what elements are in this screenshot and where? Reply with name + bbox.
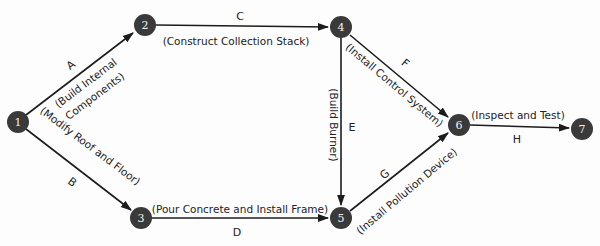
node-1: 1 <box>7 111 29 133</box>
activity-e-desc: (Build Burner) <box>328 88 340 161</box>
node-2: 2 <box>134 14 156 36</box>
activity-d-letter: D <box>233 226 241 239</box>
node-1-label: 1 <box>15 116 22 129</box>
activity-c-letter: C <box>236 10 244 23</box>
activity-e-letter: E <box>349 121 356 134</box>
edge-f <box>350 35 448 117</box>
node-7-label: 7 <box>579 123 586 136</box>
node-7: 7 <box>571 118 593 140</box>
activity-h-letter: H <box>513 133 521 146</box>
activity-b-letter: B <box>65 175 79 190</box>
node-3: 3 <box>130 207 152 229</box>
node-4-label: 4 <box>338 21 345 34</box>
activity-f-desc: (Install Control System) <box>343 41 445 130</box>
activity-b-desc: (Modify Roof and Floor) <box>38 104 143 187</box>
activity-d-desc: (Pour Concrete and Install Frame) <box>152 203 328 215</box>
node-4: 4 <box>330 16 352 38</box>
network-diagram: A (Build Internal Components) B (Modify … <box>0 0 600 246</box>
activity-a-letter: A <box>64 57 78 72</box>
edge-h <box>470 125 569 128</box>
node-3-label: 3 <box>138 212 145 225</box>
activity-h-desc: (Inspect and Test) <box>471 109 565 121</box>
node-6-label: 6 <box>456 119 463 132</box>
edges <box>26 25 569 218</box>
node-2-label: 2 <box>142 19 149 32</box>
node-6: 6 <box>448 114 470 136</box>
node-5: 5 <box>330 207 352 229</box>
diagram-svg: A (Build Internal Components) B (Modify … <box>0 0 600 246</box>
activity-f-letter: F <box>399 56 412 70</box>
activity-g-desc: (Install Pollution Device) <box>354 145 459 236</box>
activity-c-desc: (Construct Collection Stack) <box>163 35 310 47</box>
node-5-label: 5 <box>338 212 345 225</box>
edge-c <box>156 25 328 27</box>
